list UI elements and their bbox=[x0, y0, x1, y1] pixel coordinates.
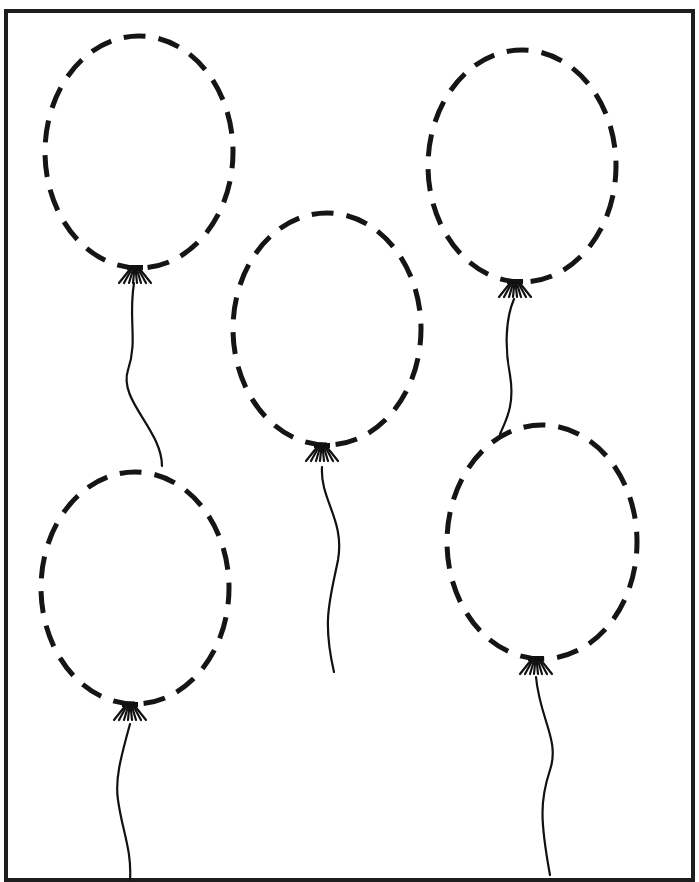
dashed-balloon-outline bbox=[447, 425, 637, 659]
balloon-center bbox=[233, 213, 421, 672]
balloon-top-right bbox=[428, 50, 616, 434]
balloon-string bbox=[500, 299, 514, 434]
balloon-string bbox=[117, 724, 130, 880]
balloon-string bbox=[536, 677, 553, 875]
balloon-string bbox=[322, 467, 339, 672]
dashed-balloon-outline bbox=[428, 50, 616, 282]
dashed-balloon-outline bbox=[41, 472, 229, 704]
balloon-bottom-right bbox=[447, 425, 637, 875]
dashed-balloon-outline bbox=[45, 36, 233, 268]
dashed-balloon-outline bbox=[233, 213, 421, 445]
balloon-string bbox=[127, 283, 162, 466]
balloon-tracing-worksheet bbox=[0, 0, 699, 882]
page-frame bbox=[6, 11, 693, 880]
balloon-top-left bbox=[45, 36, 233, 466]
balloon-bottom-left bbox=[41, 472, 229, 880]
balloons-group bbox=[41, 36, 637, 880]
